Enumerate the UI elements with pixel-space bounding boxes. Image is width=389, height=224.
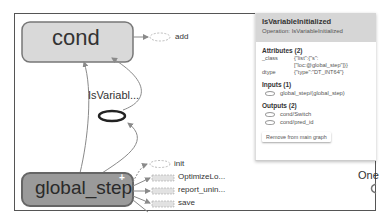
optimize-node[interactable]	[152, 175, 174, 181]
info-panel: IsVariableInitialized Operation: IsVaria…	[255, 13, 376, 161]
info-panel-header: IsVariableInitialized Operation: IsVaria…	[256, 13, 376, 42]
attribute-value: {"list":{"s":	[294, 55, 370, 62]
expand-marker-icon[interactable]: +	[119, 172, 125, 183]
op-node-icon	[265, 91, 275, 96]
cond-label: cond	[52, 25, 100, 51]
is-variable-initialized-node[interactable]	[99, 111, 125, 121]
attributes-section: Attributes (2) _class {"list":{"s": ["lo…	[256, 47, 376, 76]
attribute-row: dtype {"type":"DT_INT64"}	[262, 69, 370, 76]
input-item[interactable]: global_step/(global_step)	[262, 89, 370, 97]
is-variable-label: IsVariabl...	[88, 89, 139, 101]
attribute-row-continued: ["loc:@global_step"]}}	[262, 62, 370, 69]
one-label: One	[358, 169, 379, 181]
attribute-value: ["loc:@global_step"]}}	[294, 62, 370, 69]
output-label: cond/Switch	[280, 110, 311, 118]
init-label: init	[174, 159, 184, 168]
save-node[interactable]	[152, 201, 174, 207]
attribute-key: _class	[262, 55, 294, 62]
global-step-label: global_step	[35, 177, 132, 199]
output-item[interactable]: cond/pred_id	[262, 118, 370, 126]
output-item[interactable]: cond/Switch	[262, 110, 370, 118]
remove-from-main-graph-button[interactable]: Remove from main graph	[262, 132, 331, 142]
op-node-icon	[265, 120, 275, 125]
init-node[interactable]	[150, 161, 170, 168]
input-label: global_step/(global_step)	[280, 89, 345, 97]
save-label: save	[178, 198, 195, 207]
op-node-icon	[265, 112, 275, 117]
attribute-key: dtype	[262, 69, 294, 76]
outputs-header: Outputs (2)	[262, 102, 370, 110]
attribute-key-spacer	[262, 62, 294, 69]
inputs-header: Inputs (1)	[262, 81, 370, 89]
add-node[interactable]	[150, 33, 170, 41]
report-label: report_unin...	[178, 185, 225, 194]
attribute-value: {"type":"DT_INT64"}	[294, 69, 370, 76]
attributes-header: Attributes (2)	[262, 47, 370, 55]
attribute-row: _class {"list":{"s":	[262, 55, 370, 62]
outputs-section: Outputs (2) cond/Switch cond/pred_id	[256, 102, 376, 126]
one-node[interactable]	[371, 184, 376, 193]
info-panel-title: IsVariableInitialized	[262, 17, 371, 27]
report-node[interactable]	[152, 188, 174, 194]
info-panel-operation: Operation: IsVariableInitialized	[262, 27, 371, 36]
optimize-label: OptimizeLo...	[178, 172, 225, 181]
inputs-section: Inputs (1) global_step/(global_step)	[256, 81, 376, 97]
output-label: cond/pred_id	[280, 118, 314, 126]
add-label: add	[175, 32, 188, 41]
